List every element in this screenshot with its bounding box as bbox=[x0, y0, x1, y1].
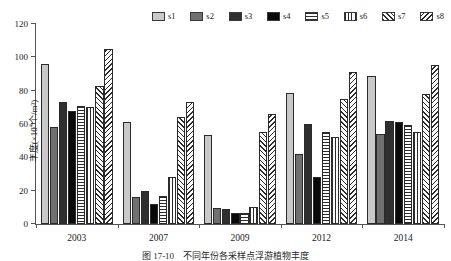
bar-2009-s7[interactable] bbox=[259, 132, 267, 224]
chart-legend: s1s2s3s4s5s6s7s8 bbox=[152, 9, 444, 23]
legend-label-s6: s6 bbox=[360, 12, 368, 21]
bar-2012-s1[interactable] bbox=[286, 93, 294, 224]
legend-item-s6[interactable]: s6 bbox=[344, 9, 368, 23]
bar-2009-s2[interactable] bbox=[213, 208, 221, 224]
bar-2007-s3[interactable] bbox=[141, 191, 149, 224]
bar-2012-s4[interactable] bbox=[313, 177, 321, 224]
legend-swatch-s8 bbox=[420, 12, 433, 21]
bar-2007-s7[interactable] bbox=[177, 117, 185, 224]
x-axis-tick bbox=[118, 224, 119, 228]
bar-2014-s1[interactable] bbox=[367, 76, 375, 224]
legend-swatch-s1 bbox=[152, 12, 165, 21]
x-axis-tick bbox=[362, 224, 363, 228]
bar-2003-s8[interactable] bbox=[104, 49, 112, 224]
x-axis-label-2007: 2007 bbox=[149, 233, 168, 243]
bar-2003-s5[interactable] bbox=[77, 106, 85, 224]
legend-label-s2: s2 bbox=[206, 12, 214, 21]
bar-2009-s8[interactable] bbox=[268, 114, 276, 224]
bar-group-2007 bbox=[118, 24, 200, 224]
x-axis-tick bbox=[444, 224, 445, 228]
legend-swatch-s6 bbox=[344, 12, 357, 21]
bar-2003-s3[interactable] bbox=[59, 102, 67, 224]
legend-item-s8[interactable]: s8 bbox=[420, 9, 444, 23]
bar-2012-s8[interactable] bbox=[349, 72, 357, 224]
x-axis-label-2014: 2014 bbox=[394, 233, 413, 243]
bar-2012-s5[interactable] bbox=[322, 132, 330, 224]
bar-2003-s1[interactable] bbox=[41, 64, 49, 224]
x-axis-label-2003: 2003 bbox=[67, 233, 86, 243]
x-axis-tick bbox=[199, 224, 200, 228]
y-axis-tick-label: 0 bbox=[24, 219, 29, 229]
bar-2007-s6[interactable] bbox=[168, 177, 176, 225]
legend-label-s4: s4 bbox=[283, 12, 291, 21]
bar-2009-s6[interactable] bbox=[249, 207, 257, 224]
bar-2014-s8[interactable] bbox=[431, 65, 439, 224]
bar-2012-s2[interactable] bbox=[295, 154, 303, 224]
bar-group-2009 bbox=[199, 24, 281, 224]
bar-2009-s1[interactable] bbox=[204, 135, 212, 224]
x-axis-label-2012: 2012 bbox=[312, 233, 331, 243]
bar-2009-s5[interactable] bbox=[240, 213, 248, 224]
bar-2012-s6[interactable] bbox=[331, 137, 339, 224]
legend-label-s7: s7 bbox=[398, 12, 406, 21]
bar-2007-s8[interactable] bbox=[186, 102, 194, 224]
plot-area: 020406080100120 20032007200920122014 bbox=[35, 24, 444, 225]
bar-2014-s2[interactable] bbox=[376, 134, 384, 224]
bar-group-2014 bbox=[362, 24, 444, 224]
bar-2007-s5[interactable] bbox=[159, 196, 167, 224]
bar-2007-s1[interactable] bbox=[123, 122, 131, 224]
bar-groups bbox=[36, 24, 444, 224]
bar-2014-s6[interactable] bbox=[413, 132, 421, 225]
bar-2003-s7[interactable] bbox=[95, 86, 103, 224]
y-axis-title: 丰度(×104个/m³) bbox=[27, 99, 40, 162]
y-axis-tick-label: 100 bbox=[15, 52, 29, 62]
y-axis-tick-label: 120 bbox=[15, 19, 29, 29]
y-axis-tick-label: 20 bbox=[19, 186, 28, 196]
x-axis-label-2009: 2009 bbox=[231, 233, 250, 243]
bar-2014-s4[interactable] bbox=[395, 122, 403, 224]
x-axis-tick bbox=[36, 224, 37, 228]
legend-label-s8: s8 bbox=[436, 12, 444, 21]
figure-container: s1s2s3s4s5s6s7s8 020406080100120 2003200… bbox=[0, 0, 451, 261]
bar-2007-s2[interactable] bbox=[132, 197, 140, 224]
bar-2014-s5[interactable] bbox=[404, 125, 412, 224]
bar-group-2012 bbox=[281, 24, 363, 224]
bar-2012-s3[interactable] bbox=[304, 124, 312, 224]
legend-swatch-s2 bbox=[190, 12, 203, 21]
legend-item-s4[interactable]: s4 bbox=[267, 9, 291, 23]
legend-swatch-s5 bbox=[305, 12, 318, 21]
legend-swatch-s7 bbox=[382, 12, 395, 21]
bar-2003-s6[interactable] bbox=[86, 107, 94, 224]
y-axis-tick-label: 80 bbox=[19, 86, 28, 96]
legend-item-s1[interactable]: s1 bbox=[152, 9, 176, 23]
bar-group-2003 bbox=[36, 24, 118, 224]
legend-swatch-s3 bbox=[229, 12, 242, 21]
bar-2014-s7[interactable] bbox=[422, 94, 430, 224]
figure-caption: 图 17-10 不同年份各采样点浮游植物丰度 bbox=[0, 249, 451, 261]
legend-label-s5: s5 bbox=[321, 12, 329, 21]
x-axis-tick bbox=[281, 224, 282, 228]
legend-label-s1: s1 bbox=[168, 12, 176, 21]
bar-2014-s3[interactable] bbox=[385, 121, 393, 224]
bar-2009-s3[interactable] bbox=[222, 209, 230, 224]
legend-label-s3: s3 bbox=[245, 12, 253, 21]
legend-item-s3[interactable]: s3 bbox=[229, 9, 253, 23]
bar-2003-s2[interactable] bbox=[50, 127, 58, 224]
bar-2003-s4[interactable] bbox=[68, 111, 76, 224]
bar-2012-s7[interactable] bbox=[340, 99, 348, 224]
bar-2009-s4[interactable] bbox=[231, 213, 239, 224]
bar-2007-s4[interactable] bbox=[150, 204, 158, 224]
legend-item-s5[interactable]: s5 bbox=[305, 9, 329, 23]
legend-swatch-s4 bbox=[267, 12, 280, 21]
legend-item-s7[interactable]: s7 bbox=[382, 9, 406, 23]
legend-item-s2[interactable]: s2 bbox=[190, 9, 214, 23]
